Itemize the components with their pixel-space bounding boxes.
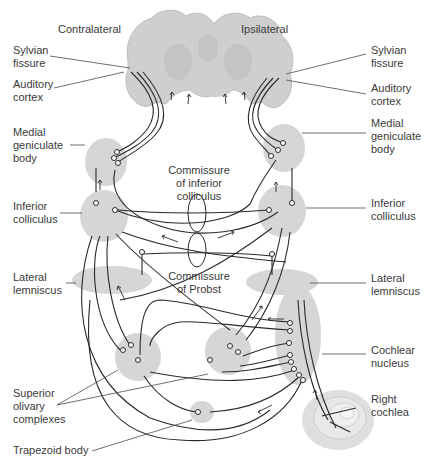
superior-olivary-complex-right [205,327,251,375]
label-sylvian-fissure-right: Sylvian fissure [371,44,406,70]
label-sylvian-fissure-left: Sylvian fissure [13,44,48,70]
label-right-cochlea: Right cochlea [371,393,409,419]
label-commissure-of-probst: Commissure of Probst [163,270,235,296]
label-inferior-colliculus-left: Inferior colliculus [13,200,58,226]
label-superior-olivary-complexes: Superior olivary complexes [13,387,66,426]
label-auditory-cortex-left: Auditory cortex [13,78,53,104]
label-medial-geniculate-body-left: Medial geniculate body [13,126,63,165]
label-commissure-inferior-colliculus: Commissure of inferior colliculus [163,164,235,203]
right-cochlea-graphic [302,390,374,450]
label-trapezoid-body: Trapezoid body [13,444,88,457]
label-lateral-lemniscus-right: Lateral lemniscus [371,272,420,298]
label-cochlear-nucleus: Cochlear nucleus [371,344,415,370]
label-medial-geniculate-body-right: Medial geniculate body [371,117,421,156]
inferior-colliculus-left [80,190,128,242]
medial-geniculate-body-right [263,124,305,172]
neural-fibers [82,72,356,441]
label-auditory-cortex-right: Auditory cortex [371,82,411,108]
label-inferior-colliculus-right: Inferior colliculus [371,197,416,223]
contralateral-heading: Contralateral [58,23,121,36]
label-lateral-lemniscus-left: Lateral lemniscus [13,271,62,297]
ipsilateral-heading: Ipsilateral [241,23,288,36]
